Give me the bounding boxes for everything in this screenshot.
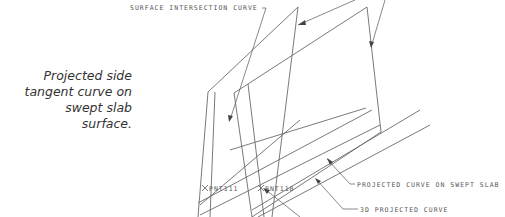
cad-drawing: SURFACE INTERSECTION CURVE PROJECTED CUR… — [0, 0, 505, 217]
label-pnt111: PNT111 — [209, 185, 238, 193]
leader-surface-intersection — [228, 8, 266, 122]
leader-projected-curve-on-swept-slab — [327, 158, 355, 184]
projected-curves — [198, 110, 430, 217]
label-projected-curve-on-swept-slab: PROJECTED CURVE ON SWEPT SLAB — [357, 181, 500, 189]
label-surface-intersection-curve: SURFACE INTERSECTION CURVE — [130, 4, 258, 12]
label-pnt110: PNT110 — [265, 185, 294, 193]
label-3d-projected-curve: 3D PROJECTED CURVE — [360, 206, 448, 214]
point-marker-pnt111 — [202, 185, 208, 191]
